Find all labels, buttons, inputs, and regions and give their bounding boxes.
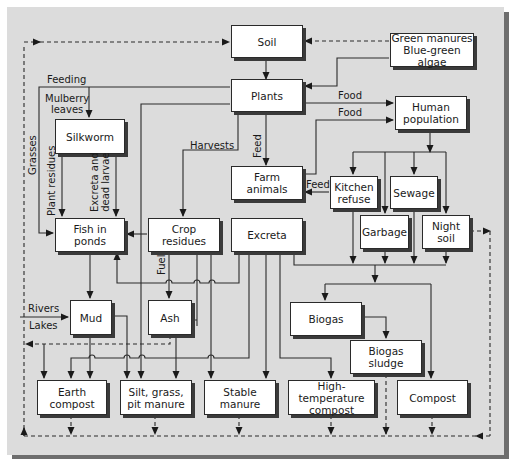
label-lakes: Lakes bbox=[29, 320, 58, 331]
node-soil: Soil bbox=[231, 25, 303, 58]
label-rivers: Rivers bbox=[28, 303, 59, 314]
node-crop-residues: Crop residues bbox=[148, 218, 220, 252]
node-biogas: Biogas bbox=[290, 302, 362, 336]
label-excreta-dead-larvae: Excreta and dead larvae bbox=[89, 152, 111, 212]
node-sewage: Sewage bbox=[390, 176, 438, 209]
node-silt-grass-pit-manure: Silt, grass, pit manure bbox=[120, 380, 192, 415]
node-fish-in-ponds: Fish in ponds bbox=[55, 218, 125, 252]
label-fuel: Fuel bbox=[156, 255, 167, 275]
node-kitchen-refuse: Kitchen refuse bbox=[330, 176, 378, 209]
label-food-1: Food bbox=[338, 90, 362, 101]
node-garbage: Garbage bbox=[360, 215, 409, 249]
node-excreta: Excreta bbox=[231, 218, 303, 252]
label-feed-horizontal: Feed bbox=[306, 179, 330, 190]
node-farm-animals: Farm animals bbox=[231, 166, 303, 200]
node-compost: Compost bbox=[397, 380, 468, 415]
label-feed-vertical: Feed bbox=[252, 134, 263, 158]
label-feeding: Feeding bbox=[47, 74, 86, 85]
node-high-temperature-compost: High-temperature compost bbox=[288, 380, 375, 415]
node-silkworm: Silkworm bbox=[55, 119, 125, 154]
label-food-2: Food bbox=[338, 107, 362, 118]
node-earth-compost: Earth compost bbox=[37, 380, 107, 415]
node-plants: Plants bbox=[231, 79, 303, 112]
node-green-manures: Green manures Blue-green algae bbox=[390, 33, 474, 67]
node-human-population: Human population bbox=[395, 96, 467, 130]
label-mulberry-leaves: Mulberry leaves bbox=[45, 93, 89, 115]
node-stable-manure: Stable manure bbox=[204, 380, 276, 415]
label-plant-residues: Plant residues bbox=[46, 146, 57, 216]
label-grasses: Grasses bbox=[27, 135, 38, 175]
node-night-soil: Night soil bbox=[422, 215, 470, 249]
node-mud: Mud bbox=[70, 300, 112, 335]
node-ash: Ash bbox=[148, 300, 192, 335]
label-harvests: Harvests bbox=[190, 140, 234, 151]
node-biogas-sludge: Biogas sludge bbox=[350, 340, 422, 374]
